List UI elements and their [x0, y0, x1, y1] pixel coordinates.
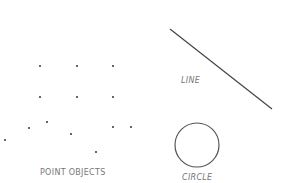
point	[76, 65, 78, 67]
circle-label: CIRCLE	[182, 173, 212, 182]
point-objects-label: POINT OBJECTS	[40, 168, 106, 177]
point-objects	[4, 65, 132, 153]
point	[112, 126, 114, 128]
point	[4, 139, 6, 141]
circle-object	[175, 123, 219, 167]
point	[70, 133, 72, 135]
point	[130, 126, 132, 128]
point	[95, 151, 97, 153]
line-object	[170, 29, 272, 109]
point	[46, 121, 48, 123]
line-label: LINE	[181, 76, 200, 85]
point	[39, 96, 41, 98]
point	[76, 96, 78, 98]
point	[28, 127, 30, 129]
point	[112, 96, 114, 98]
diagram-canvas	[0, 0, 291, 183]
point	[112, 65, 114, 67]
point	[39, 65, 41, 67]
